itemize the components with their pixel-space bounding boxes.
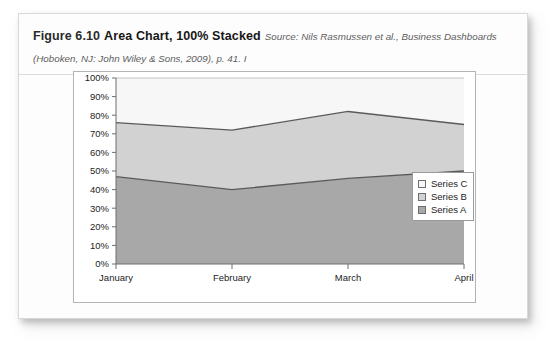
figure-number: Figure 6.10 <box>33 29 100 43</box>
y-tick-label: 90% <box>90 91 110 102</box>
chart-areas <box>116 78 464 264</box>
figure-title: Area Chart, 100% Stacked <box>104 29 261 43</box>
y-tick-label: 60% <box>90 147 110 158</box>
x-tick-label: April <box>454 272 473 283</box>
legend-swatch-series-a <box>418 206 426 214</box>
legend-item-series-c[interactable]: Series C <box>418 177 467 190</box>
y-tick-label: 0% <box>95 258 109 269</box>
chart-legend: Series C Series B Series A <box>412 172 474 221</box>
y-tick-label: 40% <box>90 184 110 195</box>
scanned-page-background: Figure 6.10Area Chart, 100% StackedSourc… <box>0 0 560 344</box>
y-tick-label: 10% <box>90 240 110 251</box>
figure-card: Figure 6.10Area Chart, 100% StackedSourc… <box>18 13 528 319</box>
legend-label-series-b: Series B <box>431 191 467 202</box>
x-tick-label: March <box>335 272 361 283</box>
chart-plot-frame: 0%10%20%30%40%50%60%70%80%90%100% Januar… <box>73 71 476 303</box>
figure-caption: Figure 6.10Area Chart, 100% StackedSourc… <box>19 14 527 75</box>
legend-label-series-a: Series A <box>431 204 466 215</box>
y-tick-label: 30% <box>90 203 110 214</box>
legend-item-series-b[interactable]: Series B <box>418 190 467 203</box>
y-tick-label: 80% <box>90 110 110 121</box>
x-tick-label: February <box>213 272 251 283</box>
y-tick-label: 20% <box>90 221 110 232</box>
legend-swatch-series-c <box>418 180 426 188</box>
legend-item-series-a[interactable]: Series A <box>418 203 467 216</box>
legend-label-series-c: Series C <box>431 178 467 189</box>
x-tick-label: January <box>99 272 133 283</box>
figure-source-line1: Source: Nils Rasmussen et al., Business … <box>265 31 497 42</box>
y-tick-label: 100% <box>85 72 110 83</box>
figure-source-line2: (Hoboken, NJ: John Wiley & Sons, 2009), … <box>33 51 515 66</box>
legend-swatch-series-b <box>418 193 426 201</box>
y-tick-label: 50% <box>90 165 110 176</box>
y-tick-label: 70% <box>90 128 110 139</box>
